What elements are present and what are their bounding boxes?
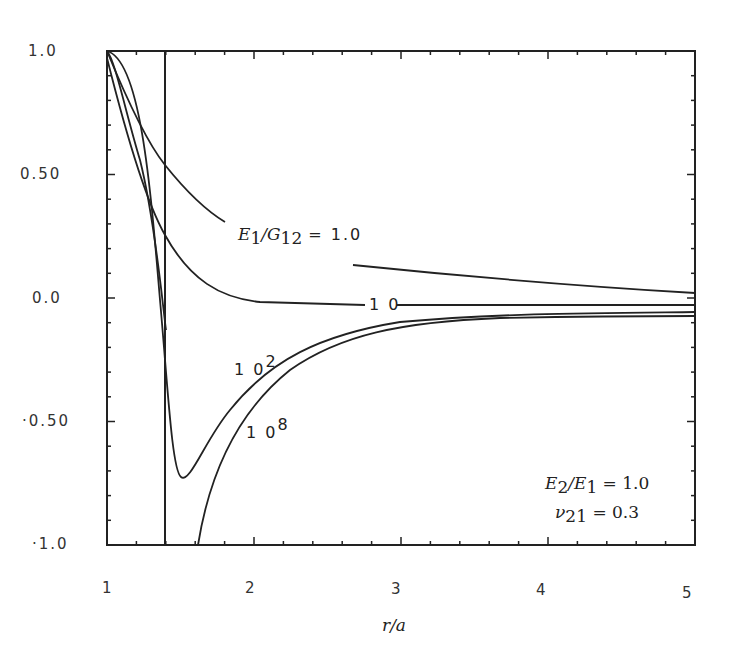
x-tick-label: 2: [245, 579, 257, 597]
axis-ticks: [107, 51, 695, 545]
label-10: 1 0: [369, 295, 400, 314]
y-tick-label: ·1.0: [32, 535, 69, 553]
x-tick-label: 1: [102, 579, 114, 597]
plot-frame: [107, 51, 695, 545]
x-tick-label: 3: [391, 580, 403, 598]
chart: 1.0 0.50 0.0 ·0.50 ·1.0 1 2 3 4 5 r/a E1…: [0, 0, 732, 667]
label-10-8: 1 08: [246, 415, 290, 442]
curve-e1g12-1-tail: [353, 265, 695, 293]
y-tick-label: 0.50: [20, 165, 61, 183]
param-nu21: ν21 = 0.3: [555, 502, 639, 526]
label-10-2: 1 02: [234, 352, 278, 379]
curve-10-2: [107, 51, 695, 478]
x-tick-label: 5: [682, 584, 694, 602]
y-tick-label: 0.0: [32, 289, 62, 307]
x-axis-label: r/a: [382, 615, 406, 635]
y-tick-label: 1.0: [28, 42, 58, 60]
label-e1g12: E1/G12= 1.0: [237, 224, 362, 248]
y-tick-label: ·0.50: [22, 412, 70, 430]
param-e2e1: E2/E1 = 1.0: [544, 473, 649, 497]
x-tick-label: 4: [536, 581, 548, 599]
